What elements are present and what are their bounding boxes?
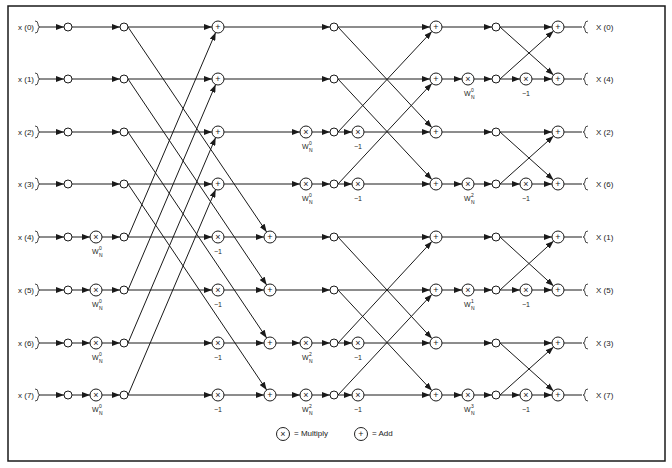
stage1-node bbox=[120, 391, 128, 399]
output-label: X (3) bbox=[596, 339, 614, 348]
svg-text:+: + bbox=[215, 22, 220, 32]
input-label: x (0) bbox=[18, 23, 34, 32]
svg-text:0: 0 bbox=[309, 140, 312, 146]
stage3-node bbox=[492, 391, 500, 399]
svg-text:×: × bbox=[215, 285, 220, 295]
svg-text:+: + bbox=[267, 390, 272, 400]
svg-text:2: 2 bbox=[309, 351, 312, 357]
minus-one-label: −1 bbox=[214, 406, 222, 413]
input-label: x (4) bbox=[18, 233, 34, 242]
legend: × = Multiply + = Add bbox=[276, 427, 456, 443]
stage2-node bbox=[330, 23, 338, 31]
stage2-node bbox=[330, 391, 338, 399]
svg-text:+: + bbox=[555, 74, 560, 84]
svg-text:×: × bbox=[465, 179, 470, 189]
svg-text:×: × bbox=[523, 285, 528, 295]
svg-text:+: + bbox=[215, 127, 220, 137]
svg-text:+: + bbox=[555, 390, 560, 400]
svg-text:+: + bbox=[267, 285, 272, 295]
svg-text:0: 0 bbox=[99, 351, 102, 357]
stage2-node bbox=[330, 233, 338, 241]
svg-text:×: × bbox=[465, 285, 470, 295]
svg-text:×: × bbox=[215, 390, 220, 400]
svg-text:×: × bbox=[355, 390, 360, 400]
input-label: x (3) bbox=[18, 180, 34, 189]
svg-text:+: + bbox=[267, 232, 272, 242]
svg-text:N: N bbox=[471, 410, 475, 416]
butterfly-network: x (0)X (0)x (1)X (4)x (2)X (2)x (3)X (6)… bbox=[0, 0, 672, 468]
add-legend-label: = Add bbox=[372, 429, 393, 438]
svg-text:0: 0 bbox=[99, 298, 102, 304]
input-node bbox=[64, 233, 72, 241]
svg-text:+: + bbox=[215, 74, 220, 84]
stage3-node bbox=[492, 286, 500, 294]
svg-text:N: N bbox=[309, 199, 313, 205]
svg-text:×: × bbox=[93, 285, 98, 295]
twiddle-label: W bbox=[464, 90, 471, 97]
svg-text:×: × bbox=[215, 232, 220, 242]
twiddle-label: W bbox=[464, 195, 471, 202]
output-label: X (7) bbox=[596, 391, 614, 400]
svg-text:+: + bbox=[555, 285, 560, 295]
stage3-node bbox=[492, 233, 500, 241]
svg-text:2: 2 bbox=[309, 403, 312, 409]
svg-text:×: × bbox=[465, 74, 470, 84]
twiddle-label: W bbox=[92, 354, 99, 361]
svg-text:×: × bbox=[303, 179, 308, 189]
svg-text:N: N bbox=[309, 410, 313, 416]
stage1-node bbox=[120, 128, 128, 136]
svg-text:×: × bbox=[523, 179, 528, 189]
svg-text:×: × bbox=[523, 74, 528, 84]
stage2-node bbox=[330, 339, 338, 347]
svg-text:0: 0 bbox=[99, 245, 102, 251]
stage1-node bbox=[120, 339, 128, 347]
input-label: x (7) bbox=[18, 391, 34, 400]
minus-one-label: −1 bbox=[522, 406, 530, 413]
stage1-node bbox=[120, 75, 128, 83]
stage3-node bbox=[492, 180, 500, 188]
svg-text:×: × bbox=[465, 390, 470, 400]
twiddle-label: W bbox=[464, 406, 471, 413]
svg-text:+: + bbox=[433, 179, 438, 189]
svg-text:+: + bbox=[555, 127, 560, 137]
output-label: X (0) bbox=[596, 23, 614, 32]
svg-text:+: + bbox=[433, 338, 438, 348]
twiddle-label: W bbox=[92, 301, 99, 308]
svg-text:+: + bbox=[555, 22, 560, 32]
input-node bbox=[64, 286, 72, 294]
svg-text:×: × bbox=[303, 338, 308, 348]
input-label: x (2) bbox=[18, 128, 34, 137]
svg-text:×: × bbox=[93, 390, 98, 400]
svg-text:0: 0 bbox=[309, 192, 312, 198]
input-label: x (5) bbox=[18, 286, 34, 295]
input-node bbox=[64, 23, 72, 31]
twiddle-label: W bbox=[92, 406, 99, 413]
output-label: X (1) bbox=[596, 233, 614, 242]
multiply-legend-label: = Multiply bbox=[294, 429, 328, 438]
svg-text:+: + bbox=[433, 22, 438, 32]
svg-text:×: × bbox=[355, 338, 360, 348]
svg-text:0: 0 bbox=[471, 87, 474, 93]
stage1-node bbox=[120, 180, 128, 188]
minus-one-label: −1 bbox=[214, 354, 222, 361]
svg-text:+: + bbox=[555, 179, 560, 189]
stage1-node bbox=[120, 286, 128, 294]
svg-text:×: × bbox=[93, 232, 98, 242]
minus-one-label: −1 bbox=[522, 195, 530, 202]
twiddle-label: W bbox=[302, 195, 309, 202]
input-label: x (6) bbox=[18, 339, 34, 348]
svg-text:N: N bbox=[471, 94, 475, 100]
svg-text:+: + bbox=[267, 338, 272, 348]
input-node bbox=[64, 128, 72, 136]
twiddle-label: W bbox=[302, 406, 309, 413]
svg-text:×: × bbox=[303, 127, 308, 137]
svg-text:N: N bbox=[471, 305, 475, 311]
input-node bbox=[64, 75, 72, 83]
svg-text:N: N bbox=[99, 252, 103, 258]
stage1-node bbox=[120, 233, 128, 241]
stage3-node bbox=[492, 128, 500, 136]
svg-text:N: N bbox=[471, 199, 475, 205]
svg-text:+: + bbox=[433, 127, 438, 137]
multiply-legend-icon: × bbox=[276, 427, 290, 441]
svg-text:×: × bbox=[355, 127, 360, 137]
